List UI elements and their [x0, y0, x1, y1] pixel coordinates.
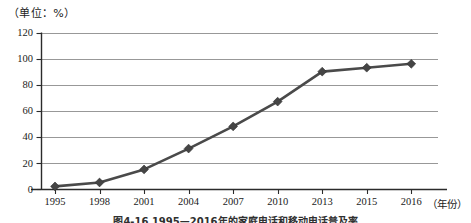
- x-tick-label: 2013: [312, 196, 333, 207]
- figure-caption: 图4-16 1995—2016年的家庭电话和移动电话普及率: [0, 214, 471, 223]
- x-tick-label: 2004: [178, 196, 200, 207]
- line-chart-canvas: 020406080100120 199519982001200420072010…: [0, 0, 471, 223]
- y-tick-labels-group: 020406080100120: [17, 27, 33, 195]
- x-tick-label: 2010: [267, 196, 288, 207]
- gridlines-group: [41, 34, 438, 164]
- x-tick-labels-group: 199519982001200420072010201320152016: [45, 196, 422, 207]
- x-tick-label: 2016: [401, 196, 422, 207]
- chart-figure: （单位：%） 020406080100120 19951998200120042…: [0, 0, 471, 223]
- x-tick-label: 1995: [45, 196, 66, 207]
- x-tick-label: 2001: [134, 196, 155, 207]
- tick-marks-group: [37, 34, 412, 195]
- y-tick-label: 120: [17, 27, 33, 38]
- data-point-marker: [140, 165, 149, 174]
- y-tick-label: 100: [17, 53, 33, 64]
- axis-lines-group: [31, 33, 447, 190]
- data-series-group: [51, 59, 416, 190]
- figure-caption-clip: 图4-16 1995—2016年的家庭电话和移动电话普及率: [0, 214, 471, 223]
- data-point-marker: [184, 144, 193, 153]
- series-markers-group: [51, 59, 416, 190]
- y-tick-label: 0: [28, 184, 33, 195]
- y-tick-label: 40: [23, 131, 34, 142]
- x-axis-title: （年份）: [427, 196, 467, 211]
- y-tick-label: 60: [23, 105, 34, 116]
- x-tick-label: 1998: [89, 196, 110, 207]
- y-tick-label: 80: [23, 79, 34, 90]
- x-tick-label: 2007: [223, 196, 244, 207]
- data-point-marker: [407, 59, 416, 68]
- y-tick-label: 20: [23, 158, 34, 169]
- data-point-marker: [362, 63, 371, 72]
- data-point-marker: [95, 178, 104, 187]
- x-tick-label: 2015: [356, 196, 377, 207]
